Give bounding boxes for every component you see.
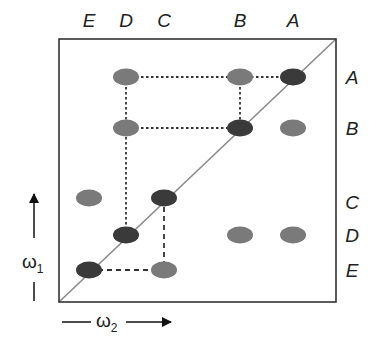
diagonal-peak [76, 262, 102, 279]
top-label-d: D [119, 11, 133, 30]
top-label-c: C [157, 11, 171, 30]
diagonal-peak [151, 190, 177, 207]
subscript: 1 [37, 262, 44, 276]
right-label-b: B [346, 119, 359, 138]
top-label-b: B [234, 11, 247, 30]
right-label-d: D [345, 226, 359, 245]
cross-peak [113, 69, 139, 86]
cross-peak [227, 69, 253, 86]
diagonal-peak [227, 120, 253, 137]
y-axis-label: ω1 [22, 252, 44, 275]
omega-symbol: ω [96, 310, 111, 331]
top-label-a: A [287, 11, 300, 30]
cross-peak [151, 262, 177, 279]
diagonal-peak [280, 69, 306, 86]
cross-peak [76, 190, 102, 207]
cross-peak [280, 120, 306, 137]
cross-peak [113, 120, 139, 137]
right-label-e: E [346, 261, 359, 280]
subscript: 2 [111, 321, 118, 335]
right-label-a: A [346, 68, 359, 87]
cross-peak [280, 227, 306, 244]
right-label-c: C [345, 193, 359, 212]
omega-symbol: ω [22, 251, 37, 272]
diagonal-peak [113, 227, 139, 244]
top-label-e: E [83, 11, 96, 30]
correlation-diagram [0, 0, 384, 354]
cross-peak [227, 227, 253, 244]
x-axis-label: ω2 [96, 311, 118, 334]
